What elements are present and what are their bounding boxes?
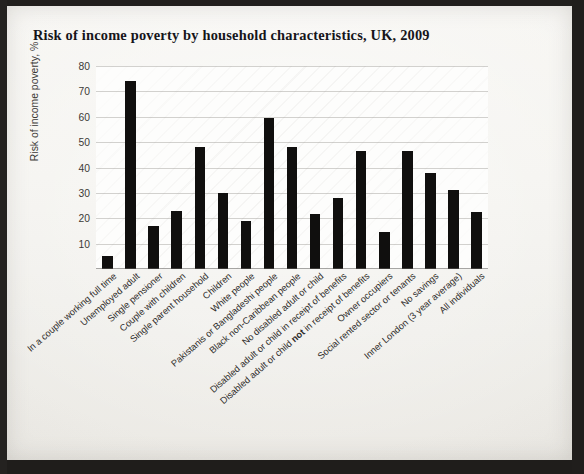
y-tick-label: 40	[58, 162, 90, 173]
y-tick-label: 60	[58, 111, 90, 122]
bar	[125, 81, 136, 269]
page-title: Risk of income poverty by household char…	[33, 27, 503, 44]
scanned-page: Risk of income poverty by household char…	[0, 0, 584, 474]
bar-slot	[257, 66, 280, 269]
y-tick-label: 70	[58, 86, 90, 97]
bar-slot	[119, 66, 142, 269]
y-tick-label: 80	[58, 61, 90, 72]
scan-edge-left	[0, 0, 7, 474]
y-tick-label: 10	[58, 238, 90, 249]
bar-slot	[96, 66, 119, 269]
y-axis-label: Risk of income poverty, %	[29, 22, 40, 182]
scan-edge-bottom	[0, 460, 584, 474]
bar	[264, 118, 275, 269]
y-axis-ticks: 8070605040302010	[54, 66, 90, 269]
scan-edge-top	[0, 0, 584, 6]
y-tick-label: 30	[58, 187, 90, 198]
y-tick-label: 20	[58, 213, 90, 224]
scan-edge-right	[572, 0, 584, 474]
y-tick-label: 50	[58, 137, 90, 148]
